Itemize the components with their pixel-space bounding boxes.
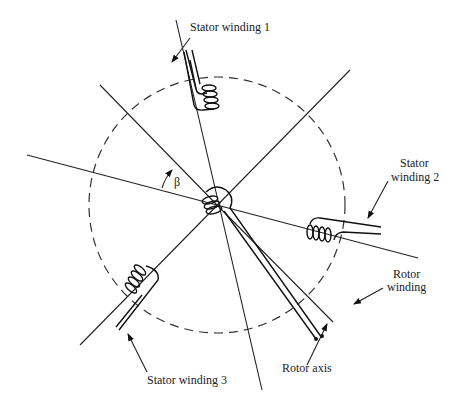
- leader-rotor-winding: [354, 288, 383, 304]
- label-rotor-winding-line2: winding: [387, 280, 426, 294]
- label-stator-winding-1: Stator winding 1: [190, 20, 270, 34]
- rotor-terminal-1: [314, 337, 318, 341]
- label-rotor-axis: Rotor axis: [282, 361, 332, 375]
- stator-winding-3: [116, 263, 158, 330]
- coil-icon: [124, 263, 148, 295]
- stator-winding-1: [184, 50, 219, 110]
- label-stator-winding-2-line1: Stator: [400, 156, 429, 170]
- beta-label: β: [174, 175, 180, 189]
- coil-icon: [307, 225, 331, 242]
- label-stator-winding-3: Stator winding 3: [147, 373, 227, 387]
- coil-icon: [202, 85, 219, 109]
- leader-stator-2: [368, 181, 388, 218]
- stator-axis-2: [27, 155, 418, 258]
- beta-arrow: [162, 170, 172, 188]
- rotor-axis-line: [217, 205, 333, 322]
- label-rotor-winding-line1: Rotor: [393, 267, 420, 281]
- label-stator-winding-2-line2: winding 2: [391, 170, 439, 184]
- diagram-canvas: β: [0, 0, 463, 411]
- reference-axis: [100, 85, 217, 205]
- coil-icon: [201, 195, 222, 216]
- leader-stator-3: [128, 334, 147, 372]
